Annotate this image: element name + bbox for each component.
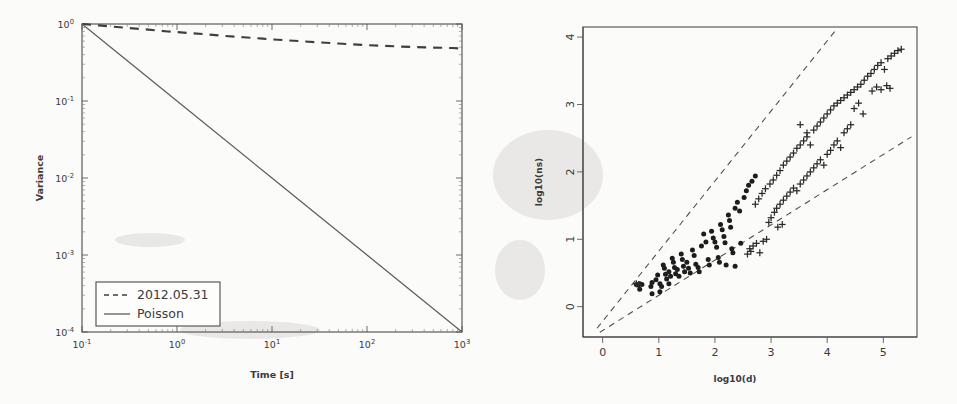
y-tick-labels: 10010-110-210-310-4 xyxy=(55,18,74,338)
scatter-point-plus xyxy=(810,127,817,134)
scatter-point-plus xyxy=(817,156,824,163)
scatter-point-dot xyxy=(650,291,655,296)
scatter-point-plus xyxy=(780,197,787,204)
y-tick-labels: 01234 xyxy=(564,34,577,311)
scatter-point-plus xyxy=(831,142,838,149)
scatter-point-dot xyxy=(699,244,704,249)
scatter-point-plus xyxy=(814,123,821,130)
scatter-point-dot xyxy=(681,264,686,269)
scatter-point-dot xyxy=(721,234,726,239)
scatter-point-dot xyxy=(662,266,667,271)
legend: 2012.05.31 Poisson xyxy=(96,282,220,326)
scatter-point-dot xyxy=(686,266,691,271)
y-tick-label: 10-2 xyxy=(55,172,74,184)
scatter-point-dot xyxy=(718,222,723,227)
scatter-point-plus xyxy=(800,137,807,144)
scatter-point-dot xyxy=(744,188,749,193)
log-ns-vs-log-d-chart: 012345 01234 log10(d) log10(ns) xyxy=(480,0,957,404)
scatter-point-plus xyxy=(807,168,814,175)
x-tick-label: 103 xyxy=(454,338,470,350)
paper-smudge xyxy=(493,130,603,220)
scatter-point-dot xyxy=(688,270,693,275)
paper-smudge xyxy=(495,240,545,300)
y-tick-label: 100 xyxy=(58,18,74,30)
scatter-point-plus xyxy=(824,111,831,118)
scatter-point-dot xyxy=(650,280,655,285)
x-tick-label: 10-1 xyxy=(73,338,92,350)
scatter-point-dot xyxy=(724,262,729,267)
y-tick-label: 4 xyxy=(564,34,577,41)
scatter-point-plus xyxy=(847,121,854,128)
scatter-point-plus xyxy=(841,129,848,136)
scatter-point-dot xyxy=(703,239,708,244)
scatter-point-plus xyxy=(804,173,811,180)
x-tick-labels: 10-1100101102103 xyxy=(73,338,471,350)
y-tick-label: 10-3 xyxy=(55,249,74,261)
scatter-point-plus xyxy=(780,162,787,169)
scatter-point-plus xyxy=(804,129,811,136)
scatter-point-plus xyxy=(755,195,762,202)
scatter-point-plus xyxy=(777,201,784,208)
scatter-point-dot xyxy=(684,260,689,265)
scatter-point-dot xyxy=(727,218,732,223)
scatter-point-plus xyxy=(787,154,794,161)
scatter-point-dot xyxy=(716,255,721,260)
scatter-point-dot xyxy=(753,173,758,178)
scatter-point-dot xyxy=(666,269,671,274)
scatter-point-plus xyxy=(871,66,878,73)
x-tick-label: 2 xyxy=(711,346,718,359)
scatter-point-plus xyxy=(851,105,858,112)
scatter-point-dot xyxy=(690,248,695,253)
scatter-point-plus xyxy=(881,66,888,73)
reference-line-lower-guide xyxy=(600,137,912,332)
left-chart-panel: 10-1100101102103 10010-110-210-310-4 Tim… xyxy=(0,0,480,404)
y-axis-title: log10(ns) xyxy=(534,158,544,206)
y-tick-label: 10-1 xyxy=(55,95,74,107)
scatter-point-plus xyxy=(898,46,905,53)
scatter-point-dot xyxy=(675,267,680,272)
scatter-point-plus xyxy=(759,190,766,197)
scatter-point-dot xyxy=(666,281,671,286)
figure-page: 10-1100101102103 10010-110-210-310-4 Tim… xyxy=(0,0,957,404)
scatter-point-plus xyxy=(861,77,868,84)
scatter-point-dot xyxy=(714,245,719,250)
scatter-point-plus xyxy=(855,100,862,107)
paper-smudge xyxy=(115,233,185,247)
scatter-point-dot xyxy=(668,274,673,279)
scatter-point-dot xyxy=(692,253,697,258)
variance-vs-time-chart: 10-1100101102103 10010-110-210-310-4 Tim… xyxy=(0,0,480,404)
y-tick-label: 10-4 xyxy=(55,326,74,338)
scatter-point-plus xyxy=(820,162,827,169)
y-tick-label: 2 xyxy=(564,168,577,175)
scatter-point-dot xyxy=(680,257,685,262)
scatter-point-plus xyxy=(844,125,851,132)
scatter-point-dot xyxy=(659,284,664,289)
scatter-point-plus xyxy=(827,106,834,113)
x-tick-label: 101 xyxy=(264,338,280,350)
legend-label-1: Poisson xyxy=(137,306,184,321)
scatter-point-dot xyxy=(717,260,722,265)
y-tick-label: 1 xyxy=(564,236,577,243)
scatter-point-plus xyxy=(797,121,804,128)
scatter-point-dot xyxy=(720,227,725,232)
scatter-point-plus xyxy=(800,177,807,184)
x-axis-title: log10(d) xyxy=(714,374,757,384)
scatter-point-plus xyxy=(797,142,804,149)
scatter-point-dot xyxy=(679,252,684,257)
scatter-point-plus xyxy=(869,88,876,95)
scatter-point-dot xyxy=(712,239,717,244)
scatter-point-dot xyxy=(749,179,754,184)
x-tick-label: 1 xyxy=(655,346,662,359)
scatter-point-dot xyxy=(697,269,702,274)
scatter-point-dot xyxy=(733,264,738,269)
scatter-point-plus xyxy=(790,150,797,157)
scatter-point-plus xyxy=(797,181,804,188)
right-chart-panel: 012345 01234 log10(d) log10(ns) xyxy=(480,0,957,404)
scatter-point-plus xyxy=(817,119,824,126)
scatter-point-plus xyxy=(783,158,790,165)
scatter-point-plus xyxy=(787,189,794,196)
x-tick-label: 5 xyxy=(880,346,887,359)
y-tick-label: 0 xyxy=(564,303,577,310)
scatter-point-plus xyxy=(837,144,844,151)
legend-label-0: 2012.05.31 xyxy=(137,287,209,302)
